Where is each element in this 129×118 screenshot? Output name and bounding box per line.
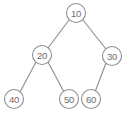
tree-node-right-left[interactable]: 60 (82, 90, 101, 109)
node-label: 60 (86, 94, 96, 105)
edge-10-30 (83, 20, 106, 49)
tree-node-right[interactable]: 30 (103, 47, 122, 66)
edge-30-60 (95, 63, 106, 92)
node-label: 10 (71, 8, 81, 19)
node-group: 10 20 30 40 50 60 (5, 4, 122, 109)
binary-tree-diagram: 10 20 30 40 50 60 (0, 0, 129, 118)
node-label: 20 (37, 50, 47, 61)
edge-20-40 (20, 62, 36, 92)
edge-20-50 (48, 62, 64, 92)
tree-node-left[interactable]: 20 (33, 46, 52, 65)
edge-10-20 (48, 20, 69, 48)
node-label: 30 (107, 51, 117, 62)
tree-node-root[interactable]: 10 (67, 4, 86, 23)
node-label: 40 (9, 94, 19, 105)
node-label: 50 (64, 94, 74, 105)
tree-node-left-right[interactable]: 50 (60, 90, 79, 109)
tree-node-left-left[interactable]: 40 (5, 90, 24, 109)
tree-canvas: 10 20 30 40 50 60 (0, 0, 129, 118)
